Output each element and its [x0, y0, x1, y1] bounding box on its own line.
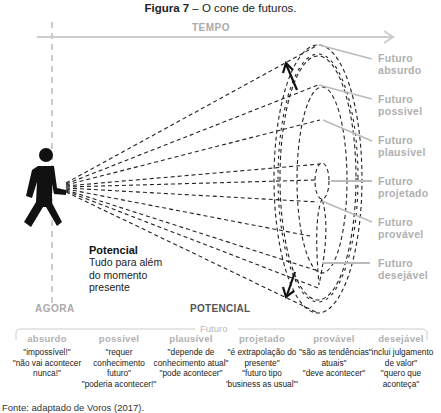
- column-projected: projetado "é extrapolação do presente" "…: [223, 333, 301, 389]
- label-future-possible: Futuropossível: [378, 93, 422, 117]
- column-plausible: plausível "depende de conhecimento atual…: [152, 333, 230, 379]
- source-note: Fonte: adaptado de Voros (2017).: [2, 402, 144, 413]
- time-label: TEMPO: [192, 22, 230, 33]
- person-icon: [24, 148, 66, 227]
- potential-note: Potencial Tudo para além do momento pres…: [89, 244, 162, 294]
- potential-desc-1: Tudo para além: [89, 256, 162, 269]
- label-future-projected: Futuroprojetado: [378, 175, 429, 199]
- column-possible: possível "requer conhecimento futuro" "p…: [80, 333, 158, 389]
- label-pointers: [319, 45, 372, 263]
- column-absurd: absurdo "impossível!" "não vai acontecer…: [8, 333, 86, 379]
- label-future-probable: Futuroprovável: [378, 216, 424, 240]
- potential-desc-3: presente: [89, 281, 162, 294]
- potential-axis-label: POTENCIAL: [190, 303, 250, 314]
- potential-desc-2: do momento: [89, 269, 162, 282]
- column-preferable: desejável "inclui julgamento de valor" "…: [362, 333, 440, 389]
- potential-title: Potencial: [89, 244, 162, 256]
- label-future-plausible: Futuroplausível: [378, 134, 426, 158]
- label-future-absurd: Futuroabsurdo: [378, 52, 422, 76]
- label-future-preferable: Futurodesejável: [378, 257, 428, 281]
- now-label: AGORA: [35, 303, 75, 314]
